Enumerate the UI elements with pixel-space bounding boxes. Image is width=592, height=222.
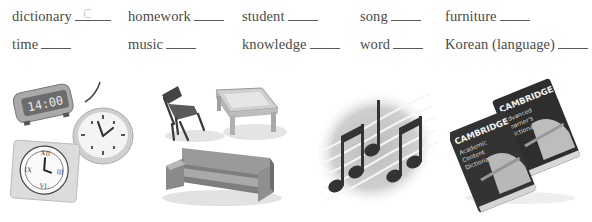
word-label: knowledge [242, 36, 307, 52]
word-label: furniture [445, 8, 497, 24]
music-notes-icon [300, 60, 450, 222]
answer-blank[interactable] [393, 36, 423, 49]
furniture-picture [150, 60, 300, 222]
answer-blank[interactable] [194, 8, 224, 21]
answer-blank[interactable] [41, 36, 71, 49]
answer-text: C [83, 6, 92, 21]
answer-blank[interactable]: C [75, 8, 111, 21]
clock-icon: 14:00 XII III VI IX [0, 60, 150, 222]
word-item-knowledge: knowledge [242, 36, 340, 53]
svg-text:VI: VI [39, 182, 48, 191]
word-item-student: student [242, 8, 318, 25]
word-label: homework [128, 8, 191, 24]
answer-blank[interactable] [288, 8, 318, 21]
word-label: Korean (language) [445, 36, 555, 52]
word-label: student [242, 8, 285, 24]
word-label: time [12, 36, 38, 52]
svg-text:III: III [56, 168, 64, 177]
word-item-music: music [128, 36, 196, 53]
word-item-homework: homework [128, 8, 224, 25]
word-label: song [360, 8, 388, 24]
svg-text:IX: IX [24, 166, 32, 174]
answer-blank[interactable] [391, 8, 421, 21]
answer-blank[interactable] [166, 36, 196, 49]
book-icon: CAMBRIDGE Advanced Learner's Dictionary … [450, 60, 592, 222]
word-item-word: word [360, 36, 423, 53]
music-picture [300, 60, 450, 222]
answer-blank[interactable] [500, 8, 530, 21]
word-item-dictionary: dictionaryC [12, 8, 111, 25]
answer-blank[interactable] [558, 36, 588, 49]
furniture-icon [150, 60, 300, 222]
word-label: word [360, 36, 390, 52]
word-item-time: time [12, 36, 71, 53]
word-item-furniture: furniture [445, 8, 530, 25]
answer-blank[interactable] [310, 36, 340, 49]
word-label: music [128, 36, 163, 52]
word-item-song: song [360, 8, 421, 25]
word-item-korean: Korean (language) [445, 36, 588, 53]
word-label: dictionary [12, 8, 72, 24]
clocks-picture: 14:00 XII III VI IX [0, 60, 150, 222]
dictionaries-picture: CAMBRIDGE Advanced Learner's Dictionary … [450, 60, 592, 222]
svg-text:XII: XII [40, 149, 51, 158]
